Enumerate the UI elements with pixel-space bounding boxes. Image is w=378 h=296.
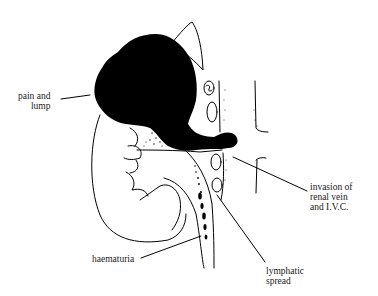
ureter-left-wall (164, 178, 204, 268)
label-line: haematuria (92, 254, 134, 264)
label-invasion-renal-vein-ivc: invasion of renal vein and I.V.C. (310, 182, 352, 212)
label-line: invasion of (310, 182, 352, 192)
kidney-tumour-diagram (0, 0, 378, 296)
label-line: spread (266, 276, 304, 286)
ivc-left-wall (219, 81, 220, 132)
ivc-right-wall-upper (255, 81, 268, 132)
leader-pain-lump (61, 95, 90, 99)
tumour-mass (94, 34, 237, 151)
blood-clots (194, 165, 207, 239)
lymph-node-detail (206, 85, 212, 91)
ivc-right-wall-lower (256, 158, 266, 193)
label-lymphatic-spread: lymphatic spread (266, 266, 304, 286)
leader-invasion (233, 157, 307, 191)
ivc-wall-lower (221, 153, 224, 200)
lymph-node (207, 102, 217, 122)
label-haematuria: haematuria (92, 254, 134, 264)
leader-lymphatic (217, 195, 265, 262)
lymph-node (211, 154, 221, 170)
lymph-node (212, 178, 222, 192)
label-line: and I.V.C. (310, 202, 352, 212)
label-line: lump (18, 101, 50, 111)
label-line: pain and (18, 91, 50, 101)
ureter-right-wall (185, 150, 214, 268)
label-line: renal vein (310, 192, 352, 202)
renal-hilum-line (137, 150, 222, 152)
label-line: lymphatic (266, 266, 304, 276)
label-pain-and-lump: pain and lump (18, 91, 50, 111)
